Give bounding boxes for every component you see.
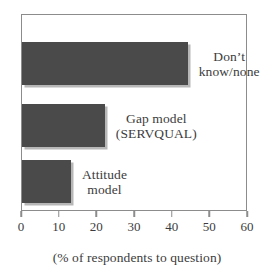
bar-label-line-2: know/none [199,64,260,79]
x-axis-tick [133,211,135,217]
bar-label-line-2: model [82,182,127,197]
bar-dont-know-none [22,42,188,85]
x-axis-tick-label: 20 [90,219,103,235]
bar-chart-figure: Don’t know/none Gap model (SERVQUAL) Att… [0,0,274,278]
x-axis-tick-label: 0 [18,219,25,235]
x-axis-tick [58,211,60,217]
x-axis: 0102030405060 [21,211,247,212]
x-axis-tick-label: 60 [241,219,254,235]
bar-label-line-1: Attitude [82,167,127,182]
bar-label-line-1: Gap model [126,111,187,126]
bar-attitude-model [22,160,71,203]
x-axis-tick [209,211,211,217]
x-axis-tick [246,211,248,217]
bar-label-line-2: (SERVQUAL) [116,126,197,141]
bar-label-dont-know-none: Don’t know/none [199,49,260,79]
x-axis-tick-label: 10 [52,219,65,235]
x-axis-tick [171,211,173,217]
x-axis-tick-label: 40 [165,219,178,235]
x-axis-tick [20,211,22,217]
x-axis-tick [96,211,98,217]
bar-label-attitude-model: Attitude model [82,167,127,197]
bar-label-line-1: Don’t [213,49,245,64]
bar-gap-model-servqual [22,104,105,147]
x-axis-tick-label: 50 [203,219,216,235]
axis-caption: (% of respondents to question) [0,250,274,266]
x-axis-tick-label: 30 [128,219,141,235]
bars-layer: Don’t know/none Gap model (SERVQUAL) Att… [21,14,247,211]
bar-label-gap-model-servqual: Gap model (SERVQUAL) [116,111,197,141]
